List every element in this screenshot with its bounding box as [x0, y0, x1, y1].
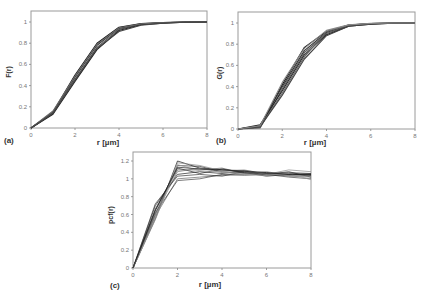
panel-label: (b)	[216, 136, 227, 145]
y-tick-label: 0.2	[226, 105, 235, 111]
plot-frame	[238, 12, 415, 129]
y-axis-label: F(r)	[5, 66, 13, 78]
series-line	[133, 168, 311, 268]
series-line	[31, 22, 207, 128]
y-tick-label: 0.6	[19, 61, 28, 67]
series-line	[238, 23, 415, 129]
x-tick-label: 6	[161, 132, 165, 138]
series-line	[133, 172, 311, 268]
y-tick-label: 0	[24, 125, 28, 131]
series-line	[133, 168, 311, 268]
series-line	[133, 174, 311, 269]
series-line	[238, 23, 415, 129]
series-line	[31, 22, 207, 128]
x-tick-label: 2	[176, 272, 180, 278]
y-tick-label: 0.2	[121, 247, 130, 253]
series-line	[31, 22, 207, 128]
y-tick-label: 1	[126, 176, 130, 182]
y-axis-label: G(r)	[216, 67, 224, 80]
x-tick-label: 6	[369, 133, 373, 139]
figure: 00.20.40.60.8102468(a)r [µm]F(r)00.20.40…	[0, 0, 426, 292]
series-line	[31, 22, 207, 128]
series-line	[133, 171, 311, 268]
series-line	[238, 23, 415, 129]
series-line	[133, 163, 311, 268]
y-tick-label: 0	[231, 126, 235, 132]
y-tick-label: 0.8	[121, 194, 130, 200]
series-line	[238, 23, 415, 129]
x-axis-label: r [µm]	[304, 138, 327, 147]
x-tick-label: 8	[205, 132, 209, 138]
series-line	[133, 167, 311, 268]
series-line	[238, 23, 415, 129]
x-tick-label: 8	[309, 272, 313, 278]
chart-a: 00.20.40.60.8102468(a)r [µm]F(r)	[4, 11, 209, 147]
plot-frame	[133, 152, 311, 268]
y-tick-label: 0.4	[226, 84, 235, 90]
chart-c: 00.20.40.60.811.202468(c)r [µm]pcf(r)	[107, 152, 313, 290]
x-tick-label: 2	[281, 133, 285, 139]
series-line	[133, 161, 311, 268]
x-tick-label: 4	[220, 272, 224, 278]
y-tick-label: 0.6	[226, 62, 235, 68]
panel-label: (c)	[110, 281, 120, 290]
x-tick-label: 0	[236, 133, 240, 139]
y-tick-label: 0.4	[19, 83, 28, 89]
x-axis-label: r [µm]	[199, 280, 222, 289]
x-tick-label: 0	[131, 272, 135, 278]
series-line	[133, 174, 311, 268]
x-tick-label: 0	[29, 132, 33, 138]
x-tick-label: 2	[73, 132, 77, 138]
series-line	[31, 22, 207, 128]
y-tick-label: 0.2	[19, 104, 28, 110]
series-line	[133, 168, 311, 268]
x-tick-label: 8	[413, 133, 417, 139]
series-line	[238, 23, 415, 129]
series-line	[31, 22, 207, 128]
series-line	[133, 166, 311, 269]
y-tick-label: 0	[126, 265, 130, 271]
y-axis-label: pcf(r)	[107, 206, 115, 224]
panel-label: (a)	[4, 136, 14, 145]
y-tick-label: 0.8	[19, 40, 28, 46]
y-tick-label: 0.8	[226, 41, 235, 47]
y-tick-label: 1.2	[121, 158, 130, 164]
chart-b: 00.20.40.60.8102468(b)r [µm]G(r)	[216, 12, 417, 147]
y-tick-label: 1	[231, 20, 235, 26]
y-tick-label: 1	[24, 19, 28, 25]
series-line	[238, 23, 415, 129]
series-line	[133, 165, 311, 268]
x-axis-label: r [µm]	[97, 138, 120, 147]
y-tick-label: 0.6	[121, 212, 130, 218]
x-tick-label: 6	[265, 272, 269, 278]
y-tick-label: 0.4	[121, 229, 130, 235]
figure-canvas: 00.20.40.60.8102468(a)r [µm]F(r)00.20.40…	[0, 0, 426, 292]
